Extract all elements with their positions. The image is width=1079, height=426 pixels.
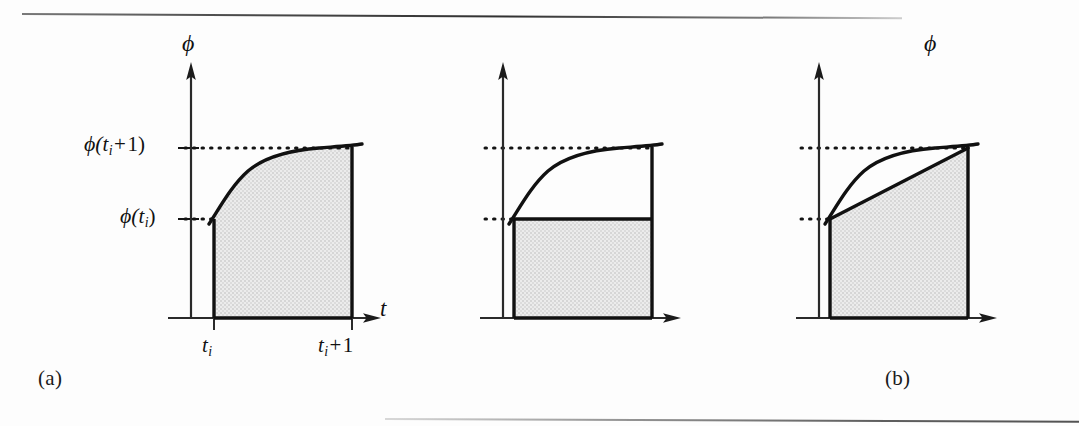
panel-c-plot — [750, 0, 1079, 426]
panel-b-plot — [430, 0, 750, 426]
x-axis-label-t: t — [380, 296, 386, 322]
y-axis-label-phi: ϕ — [182, 30, 194, 57]
figure-root: ϕ t ϕ(ti+1) ϕ(ti) ti ti+1 (a) — [0, 0, 1079, 426]
panel-b: ϕ t (b) — [430, 0, 750, 426]
panel-caption-a: (a) — [38, 366, 62, 391]
x-tick-label-ti: ti — [202, 333, 212, 360]
x-tick-label-ti-plus-1: ti+1 — [318, 333, 353, 360]
y-tick-label-phi-high: ϕ(ti+1) — [84, 132, 145, 159]
shaded-area-under-curve — [214, 147, 352, 318]
shaded-trapezoid — [830, 148, 968, 318]
panel-a: ϕ t ϕ(ti+1) ϕ(ti) ti ti+1 (a) — [0, 0, 430, 426]
panel-c: ϕ t (c) — [750, 0, 1079, 426]
y-tick-label-phi-low: ϕ(ti) — [120, 204, 156, 231]
shaded-rectangle — [514, 219, 652, 318]
panel-a-plot — [0, 0, 430, 426]
phi-curve — [509, 144, 662, 224]
